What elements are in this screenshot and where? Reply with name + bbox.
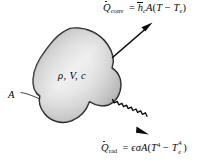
convection-equation: Qconv = hcA(T − Te) — [103, 3, 186, 14]
q-dot-conv-symbol: Q — [103, 3, 111, 14]
temperature-exponent: 4 — [157, 141, 160, 148]
heat-transfer-diagram: Qconv = hcA(T − Te) Qrad = ϵσA(T4 − Te4 … — [0, 0, 213, 163]
radiation-arrow — [113, 100, 150, 135]
surface-area-label: A — [8, 89, 14, 100]
equals-sign-rad: = — [120, 142, 131, 153]
equals-sign-conv: = — [126, 2, 137, 13]
env-subscript-e-rad: e — [178, 149, 181, 156]
diagram-vector-layer — [0, 0, 213, 163]
body-properties-label: ρ, V, c — [58, 70, 86, 81]
env-temperature-exponent: 4 — [178, 140, 181, 147]
radiation-equation: Qrad = ϵσA(T4 − Te4 ) — [101, 143, 187, 154]
conv-subscript: conv — [111, 7, 124, 14]
convection-arrow — [113, 23, 153, 58]
rad-subscript: rad — [109, 147, 117, 154]
q-dot-rad-symbol: Q — [101, 143, 109, 154]
h-subscript-c: c — [143, 7, 146, 14]
env-temperature-symbol: T — [174, 2, 180, 13]
